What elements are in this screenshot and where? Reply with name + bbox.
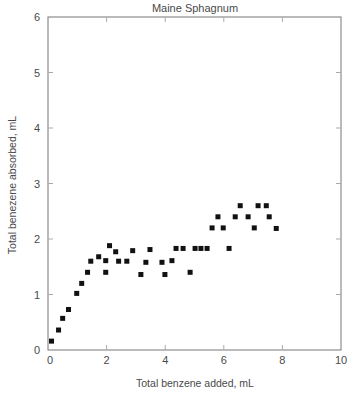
data-point	[66, 307, 71, 312]
data-point	[227, 246, 232, 251]
data-point	[246, 214, 251, 219]
y-axis-label: Total benezene absorbed, mL	[6, 116, 18, 255]
y-tick-label: 1	[34, 289, 40, 301]
data-point	[159, 260, 164, 265]
y-tick-label: 6	[34, 11, 40, 23]
data-point	[130, 248, 135, 253]
data-point	[252, 225, 257, 230]
data-point	[107, 243, 112, 248]
data-point	[96, 254, 101, 259]
y-tick-label: 2	[34, 233, 40, 245]
plot-frame	[48, 17, 341, 350]
data-point	[221, 225, 226, 230]
data-point	[267, 214, 272, 219]
data-point	[56, 328, 61, 333]
data-point	[174, 246, 179, 251]
data-point	[215, 214, 220, 219]
data-point	[138, 272, 143, 277]
data-point	[264, 203, 269, 208]
x-tick-label: 4	[162, 354, 168, 366]
x-tick-label: 8	[279, 354, 285, 366]
x-tick-label: 10	[335, 354, 347, 366]
data-point	[124, 259, 129, 264]
chart-title: Maine Sphagnum	[152, 2, 238, 14]
data-point	[188, 270, 193, 275]
data-point	[233, 214, 238, 219]
data-point	[169, 258, 174, 263]
data-point	[143, 260, 148, 265]
x-axis-ticks: 0246810	[47, 17, 347, 366]
plot-border	[48, 17, 341, 350]
data-point	[49, 339, 54, 344]
data-point	[103, 258, 108, 263]
data-points	[49, 203, 279, 343]
y-tick-label: 4	[34, 122, 40, 134]
x-tick-label: 0	[47, 354, 53, 366]
data-point	[147, 247, 152, 252]
data-point	[193, 246, 198, 251]
data-point	[198, 246, 203, 251]
data-point	[256, 203, 261, 208]
data-point	[205, 246, 210, 251]
y-axis-ticks: 0123456	[34, 11, 341, 356]
data-point	[103, 270, 108, 275]
data-point	[238, 203, 243, 208]
data-point	[210, 225, 215, 230]
data-point	[181, 246, 186, 251]
y-tick-label: 3	[34, 178, 40, 190]
data-point	[60, 316, 65, 321]
y-tick-label: 0	[34, 344, 40, 356]
data-point	[74, 291, 79, 296]
data-point	[274, 226, 279, 231]
data-point	[162, 272, 167, 277]
data-point	[88, 259, 93, 264]
scatter-plot: Maine Sphagnum 0246810 0123456 Total ben…	[0, 0, 348, 395]
data-point	[116, 259, 121, 264]
x-tick-label: 2	[104, 354, 110, 366]
data-point	[85, 270, 90, 275]
x-axis-label: Total benzene added, mL	[136, 377, 254, 389]
x-tick-label: 6	[221, 354, 227, 366]
data-point	[79, 281, 84, 286]
data-point	[113, 249, 118, 254]
chart-container: Maine Sphagnum 0246810 0123456 Total ben…	[0, 0, 348, 395]
y-tick-label: 5	[34, 67, 40, 79]
